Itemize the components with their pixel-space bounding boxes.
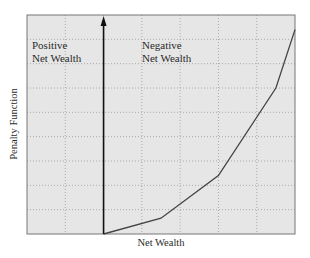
positive-net-wealth-label-line1: Positive [32,39,68,51]
y-axis-label: Penalty Function [8,88,19,160]
x-axis-label: Net Wealth [137,237,185,248]
positive-net-wealth-label-line2: Net Wealth [32,52,82,64]
penalty-function-chart: Positive Net Wealth Negative Net Wealth … [0,0,310,258]
negative-net-wealth-label-line2: Net Wealth [142,52,192,64]
negative-net-wealth-label-line1: Negative [142,39,182,51]
